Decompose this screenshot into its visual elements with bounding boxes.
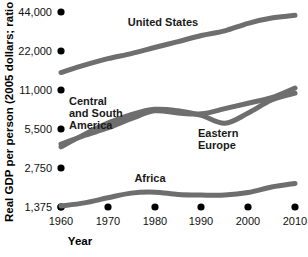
x-tick-label-2000: 2000 <box>236 215 260 227</box>
series-label-central-and-south-america-line2: and South <box>69 107 123 119</box>
x-tick-label-1980: 1980 <box>143 215 167 227</box>
series-label-eastern-europe-line2: Europe <box>198 139 236 151</box>
chart-figure: Real GDP per person (2005 dollars; ratio… <box>0 0 308 257</box>
x-tick-dot-1980 <box>151 203 158 210</box>
series-label-united-states: United States <box>128 16 198 28</box>
gdp-per-person-line-chart: Real GDP per person (2005 dollars; ratio… <box>0 0 308 257</box>
x-tick-dot-1990 <box>197 203 204 210</box>
y-tick-label-5500: 5,500 <box>24 123 52 135</box>
x-tick-label-2010: 2010 <box>283 215 307 227</box>
y-tick-label-1375: 1,375 <box>24 201 52 213</box>
x-tick-dot-2000 <box>244 203 251 210</box>
x-axis-title: Year <box>68 235 93 247</box>
series-label-eastern-europe-line1: Eastern <box>198 127 239 139</box>
y-tick-dot-2750 <box>57 164 64 171</box>
y-tick-label-2750: 2,750 <box>24 162 52 174</box>
x-tick-label-1990: 1990 <box>189 215 213 227</box>
x-tick-dot-2010 <box>291 203 298 210</box>
y-tick-dot-5500 <box>57 125 64 132</box>
x-tick-dot-1970 <box>104 203 111 210</box>
y-tick-label-44000: 44,000 <box>18 6 52 18</box>
y-tick-dot-11000 <box>57 86 64 93</box>
series-label-central-and-south-america-line3: America <box>69 119 113 131</box>
y-tick-dot-22000 <box>57 47 64 54</box>
x-tick-label-1970: 1970 <box>96 215 120 227</box>
series-label-central-and-south-america-line1: Central <box>69 95 107 107</box>
y-tick-label-11000: 11,000 <box>19 84 52 96</box>
y-tick-label-22000: 22,000 <box>18 45 52 57</box>
series-label-africa: Africa <box>134 172 166 184</box>
y-axis-title: Real GDP per person (2005 dollars; ratio… <box>3 0 15 222</box>
y-tick-dot-44000 <box>57 8 64 15</box>
series-line-africa <box>61 183 295 206</box>
x-tick-label-1960: 1960 <box>49 215 73 227</box>
